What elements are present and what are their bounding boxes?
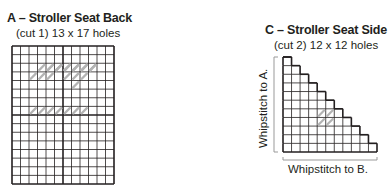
piece-c-grid (283, 57, 377, 152)
whipstitch-a-bracket (274, 57, 278, 152)
whipstitch-b-bracket (283, 157, 377, 160)
whipstitch-to-a-label: Whipstitch to A. (257, 69, 269, 148)
whipstitch-to-b-label: Whipstitch to B. (288, 163, 368, 175)
canvas-grid-diagrams (0, 0, 388, 190)
piece-a-grid (12, 46, 114, 184)
